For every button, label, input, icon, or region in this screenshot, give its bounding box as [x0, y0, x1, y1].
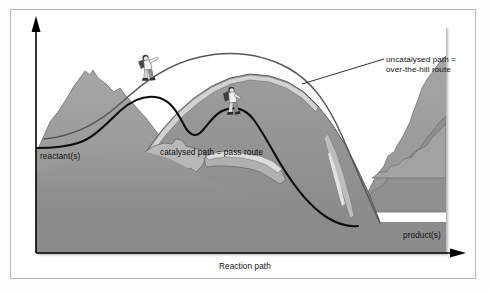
uncatalysed-path-label-line1: uncatalysed path =: [386, 55, 456, 64]
hiker2-boot: [227, 112, 233, 115]
y-axis-label: Energy: [0, 101, 1, 128]
x-axis-label: Reaction path: [219, 262, 271, 272]
catalysed-path-label: catalysed path = pass route: [160, 148, 263, 158]
uncatalysed-path-label: uncatalysed path = over-the-hill route: [386, 55, 456, 76]
hiker2-leg-back: [229, 103, 234, 113]
illustration-panel: [36, 26, 446, 253]
reactants-label: reactant(s): [40, 152, 80, 162]
products-label: product(s): [403, 231, 441, 241]
hiker1-leg-back: [144, 70, 149, 79]
foreground-base: [36, 222, 446, 253]
uncatalysed-path-label-line2: over-the-hill route: [386, 65, 451, 74]
energy-profile-figure: Energy Reaction path reactant(s) product…: [0, 0, 489, 292]
hiker1-boot: [142, 78, 148, 81]
hiker2-torso: [229, 92, 237, 104]
